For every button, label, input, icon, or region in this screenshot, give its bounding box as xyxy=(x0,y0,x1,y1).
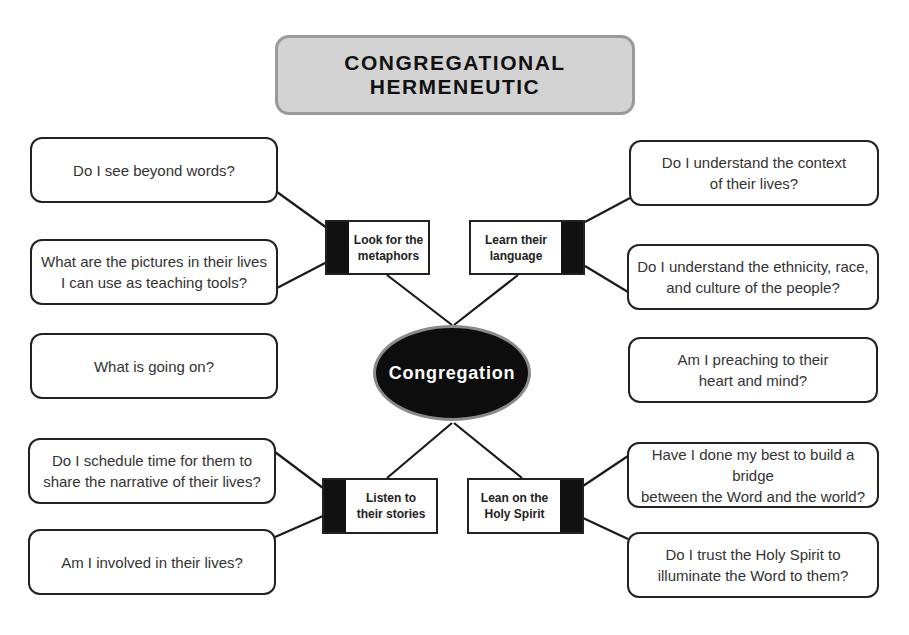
central-hub-congregation: Congregation xyxy=(373,325,531,421)
hub-label: Congregation xyxy=(389,363,516,384)
question-box-context-of-lives: Do I understand the context of their liv… xyxy=(629,140,879,206)
question-box-pictures-in-lives: What are the pictures in their lives I c… xyxy=(30,239,278,305)
branch-label: Look for the metaphors xyxy=(349,222,428,273)
question-text: Do I trust the Holy Spirit to illuminate… xyxy=(658,544,849,586)
diagram-title: CONGREGATIONAL HERMENEUTIC xyxy=(275,35,635,115)
branch-marker-bar xyxy=(327,222,349,273)
branch-lean-on-holy-spirit: Lean on the Holy Spirit xyxy=(467,478,584,534)
question-text: Do I schedule time for them to share the… xyxy=(43,450,261,492)
branch-listen-to-stories: Listen to their stories xyxy=(322,478,438,534)
question-box-see-beyond-words: Do I see beyond words? xyxy=(30,137,278,203)
branch-marker-bar xyxy=(561,222,583,273)
question-text: Do I understand the context of their liv… xyxy=(662,152,846,194)
branch-label: Listen to their stories xyxy=(346,480,436,532)
question-box-heart-and-mind: Am I preaching to their heart and mind? xyxy=(628,337,878,403)
branch-label: Lean on the Holy Spirit xyxy=(469,480,560,532)
branch-look-for-metaphors: Look for the metaphors xyxy=(325,220,430,275)
question-box-involved-in-lives: Am I involved in their lives? xyxy=(28,529,276,595)
question-text: What is going on? xyxy=(94,356,214,377)
branch-marker-bar xyxy=(560,480,582,532)
diagram-title-text: CONGREGATIONAL HERMENEUTIC xyxy=(344,51,565,99)
question-text: Have I done my best to build a bridge be… xyxy=(629,444,877,507)
question-text: Do I understand the ethnicity, race, and… xyxy=(637,256,869,298)
branch-learn-their-language: Learn their language xyxy=(469,220,585,275)
question-text: What are the pictures in their lives I c… xyxy=(41,251,267,293)
question-box-trust-holy-spirit: Do I trust the Holy Spirit to illuminate… xyxy=(627,532,879,598)
branch-marker-bar xyxy=(324,480,346,532)
question-box-build-a-bridge: Have I done my best to build a bridge be… xyxy=(627,442,879,508)
question-text: Am I preaching to their heart and mind? xyxy=(678,349,829,391)
question-text: Do I see beyond words? xyxy=(73,160,235,181)
branch-label: Learn their language xyxy=(471,222,561,273)
question-box-schedule-time: Do I schedule time for them to share the… xyxy=(28,438,276,504)
congregational-hermeneutic-diagram: CONGREGATIONAL HERMENEUTIC Do I see beyo… xyxy=(0,0,909,635)
question-text: Am I involved in their lives? xyxy=(61,552,243,573)
question-box-ethnicity-race-culture: Do I understand the ethnicity, race, and… xyxy=(627,244,879,310)
question-box-what-is-going-on: What is going on? xyxy=(30,333,278,399)
